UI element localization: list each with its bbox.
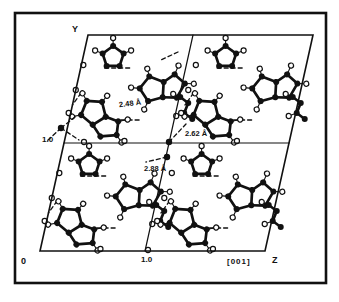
hydrogen-atom [186,87,191,92]
hydrogen-atom [181,156,186,161]
hydrogen-atom [171,91,176,96]
atom [110,43,116,49]
atom [97,159,103,165]
hydrogen-atom [279,189,285,195]
atom [209,159,215,165]
atom [223,43,229,49]
figure-scan: Y 0 1.0 1.0 [001] Z 2.48 Å 2.62 Å 2.88 Å [0,0,339,302]
atom [212,51,218,57]
hydrogen-atom [191,81,197,87]
hydrogen-atom [223,35,228,40]
hydrogen-atom [217,156,222,161]
atom [290,94,296,100]
hydrogen-atom [216,192,222,198]
hydrogen-atom [175,62,181,68]
hydrogen-atom [264,170,270,176]
hydrogen-atom [303,81,309,87]
atom [117,63,123,69]
hydrogen-atom [141,106,147,112]
atom [80,171,86,177]
hydrogen-atom [241,48,246,53]
hydrogen-atom [179,110,184,115]
atom [76,159,82,165]
hydrogen-atom [120,174,126,180]
atom [188,159,194,165]
hydrogen-atom [259,199,264,204]
hydrogen-atom [129,48,134,53]
hydrogen-atom [87,143,92,148]
hydrogen-atom [144,66,150,72]
atom [58,125,64,131]
hydrogen-atom [147,199,152,204]
hydrogen-atom [240,84,246,90]
atom [266,202,272,208]
hydrogen-atom [93,48,98,53]
hydrogen-atom [233,174,239,180]
projection-direction-label: [001] [227,258,251,266]
atom [199,151,205,157]
z-axis-tick-label: 1.0 [141,256,152,264]
hydrogen-atom [230,214,236,220]
hydrogen-atom [283,91,288,96]
hydrogen-atom [111,35,116,40]
hydrogen-atom [167,189,173,195]
atom [192,171,198,177]
atom [104,63,110,69]
packing-diagram-svg [0,0,339,302]
hydrogen-atom [81,139,86,144]
axis-label-y: Y [72,25,78,34]
atom [121,51,127,57]
hydrogen-atom [104,192,110,198]
atom [86,151,92,157]
atom [100,51,106,57]
hbond-distance-label-262: 2.62 Å [185,130,207,138]
hydrogen-atom [286,113,291,118]
hydrogen-atom [254,106,260,112]
hydrogen-atom [128,84,134,90]
hydrogen-atom [162,195,167,200]
hbond-distance-label-288: 2.88 Å [144,165,166,173]
atom [93,171,99,177]
hydrogen-atom [262,221,267,226]
axis-label-z: Z [272,256,278,265]
y-axis-tick-label: 1.0 [42,136,53,144]
hydrogen-atom [155,218,160,223]
hydrogen-atom [205,48,210,53]
hydrogen-atom [199,143,204,148]
atom [216,63,222,69]
hydrogen-atom [193,62,198,67]
hydrogen-atom [69,156,74,161]
hydrogen-atom [117,214,123,220]
hydrogen-atom [105,156,110,161]
atom [233,51,239,57]
atom [229,63,235,69]
atom [278,224,284,230]
hydrogen-atom [169,170,174,175]
hydrogen-atom [288,62,294,68]
hydrogen-atom [257,66,263,72]
atom [302,116,308,122]
figure-frame [15,13,326,283]
origin-label: 0 [21,257,26,266]
atom [205,171,211,177]
